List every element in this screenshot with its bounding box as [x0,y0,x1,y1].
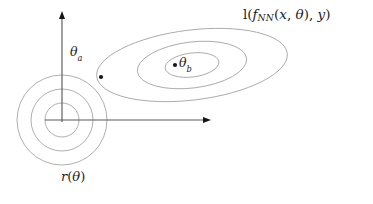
regularizer-label: r(θ) [61,170,85,183]
loss-contour-outer [92,19,291,112]
theta-a-label: θa [70,46,82,59]
reg-label-close-paren: ) [80,169,85,184]
diagram-canvas [0,0,373,204]
theta-a-subscript: a [78,53,83,63]
loss-label-x: x [279,6,287,22]
loss-contour-middle [135,35,250,94]
reg-label-theta: θ [72,169,80,184]
loss-function-label: l(fNN(x, θ), y) [243,8,330,22]
theta-a-point [99,75,103,79]
y-axis-arrowhead [59,11,65,19]
theta-b-label: θb [179,57,192,70]
loss-contour-inner [164,50,221,80]
theta-a-symbol: θ [70,44,78,59]
loss-label-comma-2: , [309,6,318,22]
loss-contours [92,19,291,112]
loss-label-comma-1: , [287,6,296,22]
loss-label-theta: θ [296,6,304,22]
theta-b-symbol: θ [179,55,187,70]
theta-b-subscript: b [187,64,192,74]
contour-diagram-figure: l(fNN(x, θ), y) θa θb r(θ) [0,0,373,204]
theta-b-point [173,63,177,67]
loss-label-end-paren: ) [325,6,330,22]
x-axis-arrowhead [203,117,211,123]
loss-label-prefix: l( [243,6,253,22]
loss-label-f: f [253,6,258,22]
loss-label-nn-subscript: NN [258,12,274,23]
